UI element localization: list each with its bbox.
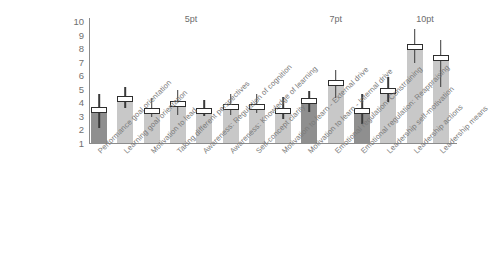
median-marker (301, 98, 317, 104)
y-tick-label: 8 (63, 43, 84, 54)
y-tick-label: 4 (63, 97, 84, 108)
y-tick-label: 2 (63, 124, 84, 135)
median-marker (91, 107, 107, 113)
y-tick-label: 3 (63, 110, 84, 121)
y-tick-label: 7 (63, 56, 84, 67)
median-marker (117, 96, 133, 102)
y-tick-label: 5 (63, 83, 84, 94)
y-tick-label: 9 (63, 29, 84, 40)
group-label-10pt: 10pt (416, 14, 434, 24)
median-marker (407, 44, 423, 50)
y-tick-label: 10 (63, 16, 84, 27)
y-tick-label: 6 (63, 70, 84, 81)
y-tick-label: 1 (63, 138, 84, 149)
median-marker (328, 80, 344, 86)
median-marker (433, 55, 449, 61)
group-label-7pt: 7pt (329, 14, 342, 24)
group-label-5pt: 5pt (185, 14, 198, 24)
